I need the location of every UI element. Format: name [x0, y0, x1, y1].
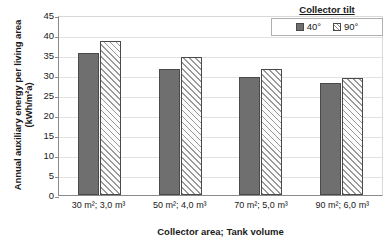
x-axis-tick-label: 30 m²; 3,0 m³ — [58, 200, 139, 211]
bar-chart: Annual auxiliary energy per living area … — [0, 0, 391, 246]
bar-group — [301, 17, 382, 195]
legend-label-40: 40° — [307, 22, 321, 32]
bar-group — [221, 17, 302, 195]
bar-90deg — [261, 69, 282, 195]
y-axis-tick-label: 15 — [30, 131, 54, 141]
legend-item-40: 40° — [296, 22, 321, 32]
bar-group — [140, 17, 221, 195]
bar-groups — [59, 17, 382, 195]
legend: Collector tilt 40° 90° — [271, 4, 383, 36]
bar-40deg — [320, 83, 341, 195]
y-axis-tick-label: 25 — [30, 91, 54, 101]
y-axis-tickmark — [55, 197, 59, 198]
bar-40deg — [239, 77, 260, 195]
bar-90deg — [100, 41, 121, 195]
y-axis-tick-label: 0 — [30, 191, 54, 201]
legend-box: 40° 90° — [271, 18, 383, 36]
plot-area — [58, 16, 383, 196]
x-axis-tick-label: 70 m²; 5,0 m³ — [221, 200, 302, 211]
bar-group — [59, 17, 140, 195]
y-axis-tick-label: 40 — [30, 31, 54, 41]
legend-swatch-40-icon — [296, 23, 304, 31]
bar-40deg — [159, 69, 180, 195]
bar-40deg — [78, 53, 99, 195]
bar-90deg — [342, 78, 363, 195]
legend-swatch-90-icon — [333, 23, 341, 31]
legend-label-90: 90° — [344, 22, 358, 32]
y-axis-tick-label: 30 — [30, 71, 54, 81]
x-axis-tick-labels: 30 m²; 3,0 m³50 m²; 4,0 m³70 m²; 5,0 m³9… — [58, 200, 383, 211]
y-axis-tick-label: 10 — [30, 151, 54, 161]
y-axis-tick-labels: 051015202530354045 — [30, 16, 54, 196]
y-axis-tick-label: 20 — [30, 111, 54, 121]
x-axis-tick-label: 90 m²; 6,0 m³ — [302, 200, 383, 211]
bar-90deg — [181, 57, 202, 195]
legend-title: Collector tilt — [271, 4, 383, 18]
x-axis-title: Collector area; Tank volume — [58, 226, 383, 237]
legend-item-90: 90° — [333, 22, 358, 32]
y-axis-tick-label: 5 — [30, 171, 54, 181]
x-axis-tick-label: 50 m²; 4,0 m³ — [139, 200, 220, 211]
y-axis-tick-label: 45 — [30, 11, 54, 21]
y-axis-tick-label: 35 — [30, 51, 54, 61]
